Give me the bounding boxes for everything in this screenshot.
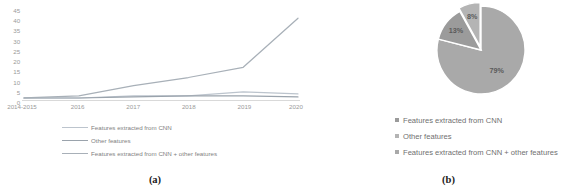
legend-item-cnn-plus-other: Features extracted from CNN + other feat…: [62, 147, 302, 160]
legend-line-swatch-cnn-plus-other-icon: [62, 153, 88, 154]
x-axis-tick-labels: 2014-2015 2016 2017 2018 2019 2020: [22, 103, 300, 115]
panel-a-caption: (a): [0, 174, 310, 185]
line-chart-svg: [22, 8, 300, 100]
line-chart-legend: Features extracted from CNN Other featur…: [62, 121, 302, 160]
x-tick-2014-2015: 2014-2015: [7, 103, 37, 111]
pie-legend-item-cnn: Features extracted from CNN: [395, 112, 587, 128]
y-tick-10: 10: [0, 80, 20, 86]
legend-item-cnn: Features extracted from CNN: [62, 121, 302, 134]
x-axis-line: [22, 100, 300, 101]
panel-b-caption: (b): [310, 174, 587, 185]
legend-line-swatch-other-icon: [62, 140, 88, 141]
pie-legend-label-other: Other features: [403, 132, 452, 141]
pie-chart-svg: 79% 13% 8%: [433, 2, 529, 98]
x-tick-2019: 2019: [238, 103, 252, 111]
pie-value-label-cnn-plus-other: 79%: [489, 66, 504, 75]
pie-value-label-other: 8%: [467, 12, 478, 21]
pie-legend-item-other: Other features: [395, 128, 587, 144]
y-tick-45: 45: [0, 8, 20, 14]
y-tick-40: 40: [0, 18, 20, 24]
figure-container: 45 40 35 30 25 20 15 10 5 0 201: [0, 0, 587, 191]
panel-a-line-chart: 45 40 35 30 25 20 15 10 5 0 201: [0, 0, 310, 191]
legend-label-cnn-plus-other: Features extracted from CNN + other feat…: [91, 150, 217, 157]
x-tick-2020: 2020: [289, 103, 303, 111]
legend-item-other: Other features: [62, 134, 302, 147]
x-tick-2016: 2016: [71, 103, 85, 111]
pie-legend-marker-cnn-plus-other-icon: [395, 150, 399, 154]
pie-legend-marker-cnn-icon: [395, 118, 399, 122]
x-tick-2017: 2017: [126, 103, 140, 111]
pie-chart-legend: Features extracted from CNN Other featur…: [395, 112, 587, 160]
y-tick-5: 5: [0, 90, 20, 96]
pie-legend-marker-other-icon: [395, 134, 399, 138]
y-tick-35: 35: [0, 28, 20, 34]
panel-b-pie-chart: 79% 13% 8% Features extracted from CNN O…: [310, 0, 587, 191]
y-tick-20: 20: [0, 59, 20, 65]
line-series-canvas: [22, 8, 300, 100]
pie-value-label-cnn: 13%: [449, 26, 464, 35]
pie-chart-region: 79% 13% 8%: [433, 2, 529, 98]
legend-label-cnn: Features extracted from CNN: [91, 124, 172, 131]
y-tick-25: 25: [0, 49, 20, 55]
legend-line-swatch-cnn-icon: [62, 127, 88, 128]
y-tick-15: 15: [0, 69, 20, 75]
pie-legend-label-cnn-plus-other: Features extracted from CNN + other feat…: [403, 148, 558, 157]
x-tick-2018: 2018: [182, 103, 196, 111]
pie-legend-label-cnn: Features extracted from CNN: [403, 116, 502, 125]
series-line-cnn-plus-other: [24, 18, 298, 98]
pie-legend-item-cnn-plus-other: Features extracted from CNN + other feat…: [395, 144, 587, 160]
line-chart-plot-region: 45 40 35 30 25 20 15 10 5 0 201: [0, 0, 310, 118]
y-tick-30: 30: [0, 39, 20, 45]
legend-label-other: Other features: [91, 137, 131, 144]
y-axis-tick-labels: 45 40 35 30 25 20 15 10 5 0: [0, 8, 20, 100]
